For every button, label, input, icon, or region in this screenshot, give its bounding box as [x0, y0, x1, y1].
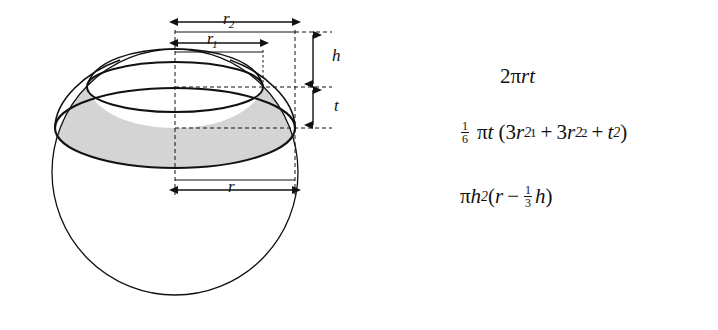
minus-operator: −: [503, 186, 523, 207]
sphere-zone-svg: [0, 0, 380, 330]
dimension-label-h: h: [332, 47, 341, 64]
fraction-numerator: 1: [461, 120, 469, 132]
close-paren: ): [546, 186, 553, 207]
formula-volume-cap: πh2(r− 1 3 h): [460, 184, 553, 210]
pi-symbol: π: [477, 122, 488, 143]
fraction-denominator: 6: [461, 132, 469, 145]
open-paren: (: [498, 122, 505, 143]
fraction-one-sixth: 1 6: [461, 120, 469, 146]
formula3-radius-var: r: [495, 186, 503, 207]
formula1-thickness-var: t: [529, 66, 535, 87]
fraction-one-third: 1 3: [524, 184, 532, 210]
fraction-numerator: 1: [524, 184, 532, 196]
formula3-height-var-2: h: [535, 186, 546, 207]
dimension-label-r2: r2: [223, 10, 234, 27]
formula-volume-zone: 1 6 πt(3r21+3r22+t2): [460, 120, 627, 146]
formula1-radius-var: r: [521, 66, 529, 87]
dimension-label-r2-subscript: 2: [229, 18, 235, 30]
sphere-diagram-panel: r2 r1 h t r: [0, 0, 380, 330]
pi-symbol: π: [460, 186, 471, 207]
dimension-label-r: r: [228, 178, 235, 195]
dimension-label-t: t: [334, 97, 339, 114]
formula2-r1-var: r: [516, 122, 524, 143]
formula2-r2-var: r: [567, 122, 575, 143]
fraction-denominator: 3: [524, 196, 532, 209]
figure-root: r2 r1 h t r 2πrt 1 6 πt(3r21+3r22+t2) πh…: [0, 0, 718, 330]
dimension-label-r1-subscript: 1: [212, 39, 217, 50]
formula2-coefficient-b: 3: [556, 122, 567, 143]
formula2-thickness-var: t: [488, 122, 494, 143]
formula1-coefficient: 2: [500, 66, 511, 87]
open-paren: (: [488, 186, 495, 207]
close-paren: ): [620, 122, 627, 143]
pi-symbol: π: [511, 66, 522, 87]
plus-operator: +: [537, 122, 557, 143]
dimension-label-r1: r1: [207, 31, 218, 47]
formula-lateral-area-zone: 2πrt: [500, 66, 535, 87]
plus-operator: +: [588, 122, 608, 143]
formula2-coefficient-a: 3: [505, 122, 516, 143]
formula3-height-var: h: [471, 186, 482, 207]
formula-panel: 2πrt 1 6 πt(3r21+3r22+t2) πh2(r− 1 3 h): [448, 56, 718, 236]
